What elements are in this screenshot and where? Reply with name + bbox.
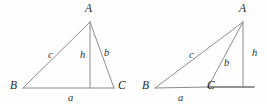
obtuse-triangle-lines [155,22,254,88]
side-label-a-left: a [68,93,73,104]
acute-triangle-lines [23,22,114,88]
vertex-label-C-left: C [118,80,126,92]
side-label-c-left: c [48,50,53,61]
segment-BA-right [155,22,243,88]
side-label-h-right: h [252,48,257,59]
vertex-label-A-left: A [85,3,92,15]
side-label-b-right: b [224,58,229,69]
figure-lines [0,0,267,104]
segment-BC-base-right [155,87,208,88]
side-label-b-left: b [104,48,109,59]
vertex-label-B-right: B [142,80,149,92]
segment-AC-left [90,22,114,88]
side-label-c-right: c [189,50,194,61]
segment-CA-right [208,22,243,87]
vertex-label-A-right: A [239,3,246,15]
vertex-label-C-right: C [207,80,215,92]
side-label-h-left: h [80,50,85,61]
side-label-a-right: a [178,93,183,104]
geometry-figure: A B C c h b a A B C c b h a [0,0,267,104]
vertex-label-B-left: B [10,80,17,92]
